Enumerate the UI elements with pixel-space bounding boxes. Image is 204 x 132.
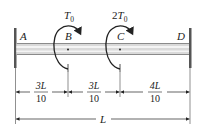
shaft — [17, 43, 190, 55]
dimension-label-bc: 3L 10 — [87, 80, 101, 104]
left-fixed-support — [14, 28, 17, 68]
torque-label-b: T0 — [64, 9, 74, 24]
point-label-d: D — [176, 30, 185, 42]
svg-text:3L: 3L — [35, 80, 47, 91]
torsion-shaft-diagram: A B C D T0 2T0 3L 10 — [0, 0, 204, 132]
total-length-label: L — [99, 113, 106, 125]
point-b-marker — [67, 49, 69, 51]
svg-text:4L: 4L — [150, 80, 161, 91]
dimension-label-ab: 3L 10 — [34, 80, 48, 104]
svg-text:10: 10 — [150, 93, 160, 104]
torque-label-c: 2T0 — [112, 9, 128, 24]
svg-text:10: 10 — [89, 93, 99, 104]
svg-text:3L: 3L — [88, 80, 100, 91]
right-fixed-support — [189, 28, 192, 68]
svg-text:10: 10 — [36, 93, 46, 104]
point-c-marker — [119, 49, 121, 51]
point-label-c: C — [117, 30, 125, 42]
dimension-label-cd: 4L 10 — [148, 80, 162, 104]
point-label-b: B — [65, 30, 72, 42]
point-label-a: A — [19, 30, 27, 42]
